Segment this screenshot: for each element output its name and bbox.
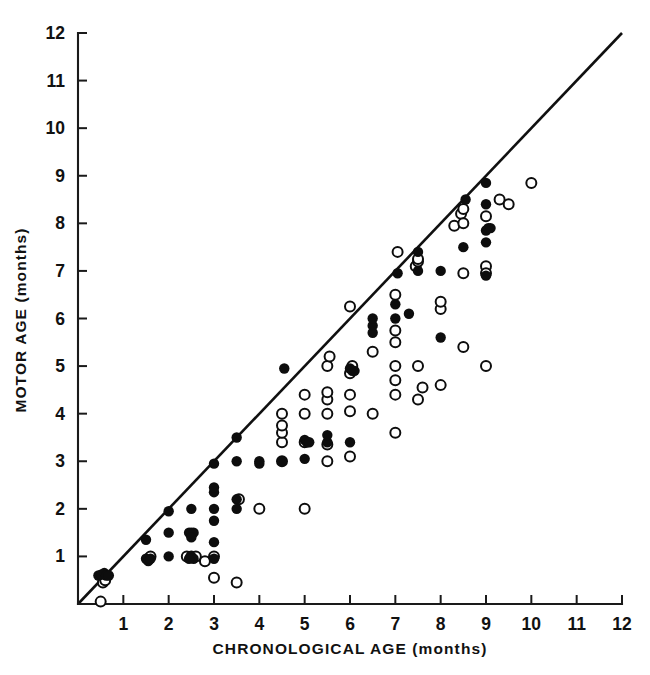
y-axis-title: MOTOR AGE (months)	[12, 227, 29, 412]
data-point-filled	[413, 247, 423, 257]
identity-reference-line	[78, 33, 622, 604]
data-point-open	[390, 428, 400, 438]
data-point-filled	[304, 437, 314, 447]
x-tick-label: 1	[118, 614, 128, 634]
y-tick-label: 5	[55, 356, 65, 376]
data-point-open	[322, 456, 332, 466]
y-tick-label: 7	[55, 261, 65, 281]
y-tick-label: 11	[47, 71, 66, 91]
data-point-open	[481, 211, 491, 221]
axis-titles-group: CHRONOLOGICAL AGE (months) MOTOR AGE (mo…	[12, 227, 487, 657]
data-point-filled	[184, 554, 194, 564]
data-point-filled	[349, 366, 359, 376]
data-point-open	[254, 504, 264, 514]
data-point-filled	[322, 430, 332, 440]
y-tick-label: 2	[55, 499, 65, 519]
scatter-plot-figure: 123456789101112123456789101112 CHRONOLOG…	[0, 0, 650, 675]
data-point-filled	[392, 268, 402, 278]
data-point-filled	[254, 458, 264, 468]
data-point-open	[418, 383, 428, 393]
x-tick-label: 2	[164, 614, 174, 634]
data-point-filled	[404, 309, 414, 319]
data-point-filled	[209, 537, 219, 547]
data-point-filled	[231, 432, 241, 442]
data-point-open	[413, 361, 423, 371]
data-point-filled	[460, 194, 470, 204]
y-tick-label: 12	[46, 23, 66, 43]
data-point-open	[322, 361, 332, 371]
data-point-filled	[481, 178, 491, 188]
data-point-filled	[145, 554, 155, 564]
data-point-filled	[458, 242, 468, 252]
data-point-open	[458, 342, 468, 352]
data-point-filled	[435, 332, 445, 342]
data-point-filled	[485, 223, 495, 233]
data-point-filled	[413, 266, 423, 276]
data-point-open	[322, 409, 332, 419]
data-point-filled	[209, 482, 219, 492]
data-point-filled	[163, 506, 173, 516]
data-point-filled	[231, 494, 241, 504]
data-point-open	[345, 406, 355, 416]
data-point-open	[390, 290, 400, 300]
data-point-open	[277, 421, 287, 431]
data-point-open	[277, 437, 287, 447]
data-point-open	[436, 380, 446, 390]
x-tick-label: 5	[300, 614, 310, 634]
data-point-open	[345, 302, 355, 312]
filled-circle-series	[93, 178, 496, 581]
y-tick-label: 3	[55, 451, 65, 471]
y-tick-label: 9	[55, 166, 65, 186]
data-point-open	[209, 573, 219, 583]
data-point-filled	[209, 516, 219, 526]
data-point-open	[458, 204, 468, 214]
data-point-open	[232, 578, 242, 588]
data-point-filled	[299, 454, 309, 464]
data-point-filled	[104, 570, 114, 580]
data-point-filled	[186, 532, 196, 542]
plot-canvas: 123456789101112123456789101112 CHRONOLOG…	[0, 0, 650, 675]
data-point-open	[436, 297, 446, 307]
data-point-open	[277, 409, 287, 419]
y-tick-label: 1	[55, 546, 65, 566]
x-tick-label: 12	[612, 614, 632, 634]
data-point-filled	[209, 504, 219, 514]
data-point-filled	[481, 237, 491, 247]
x-tick-label: 4	[254, 614, 264, 634]
data-point-filled	[231, 504, 241, 514]
data-point-open	[390, 337, 400, 347]
data-point-filled	[481, 270, 491, 280]
data-point-filled	[209, 554, 219, 564]
y-tick-label: 10	[46, 118, 66, 138]
data-point-open	[390, 390, 400, 400]
x-tick-label: 9	[481, 614, 491, 634]
x-tick-label: 11	[567, 614, 586, 634]
data-point-filled	[277, 456, 287, 466]
data-point-open	[345, 451, 355, 461]
data-point-open	[526, 178, 536, 188]
y-tick-label: 4	[55, 404, 65, 424]
y-tick-label: 8	[55, 213, 65, 233]
data-point-filled	[279, 363, 289, 373]
data-point-open	[300, 409, 310, 419]
x-tick-label: 8	[436, 614, 446, 634]
data-point-open	[413, 394, 423, 404]
data-point-open	[368, 347, 378, 357]
data-point-open	[458, 218, 468, 228]
data-point-filled	[481, 199, 491, 209]
data-point-open	[393, 247, 403, 257]
data-point-filled	[231, 456, 241, 466]
identity-reference-line	[78, 33, 622, 604]
data-point-open	[390, 325, 400, 335]
data-point-open	[325, 352, 335, 362]
y-tick-label: 6	[55, 309, 65, 329]
data-point-open	[390, 361, 400, 371]
data-point-filled	[141, 535, 151, 545]
x-tick-label: 7	[390, 614, 400, 634]
data-point-filled	[435, 266, 445, 276]
data-point-open	[481, 361, 491, 371]
data-point-filled	[345, 437, 355, 447]
data-point-filled	[209, 458, 219, 468]
x-tick-label: 3	[209, 614, 219, 634]
data-point-open	[345, 390, 355, 400]
